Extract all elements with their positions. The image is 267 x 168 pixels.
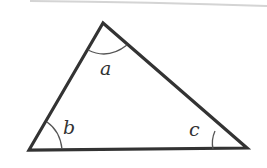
triangle-diagram: a b c: [0, 0, 267, 168]
angle-label-c: c: [189, 118, 200, 140]
page-edge-shadow: [30, 1, 267, 6]
angle-arc-a: [88, 45, 127, 54]
angle-label-a: a: [100, 57, 111, 79]
angle-arc-b: [47, 122, 62, 149]
angle-label-b: b: [63, 116, 75, 138]
triangle: [29, 23, 247, 150]
angle-arc-c: [212, 131, 215, 149]
